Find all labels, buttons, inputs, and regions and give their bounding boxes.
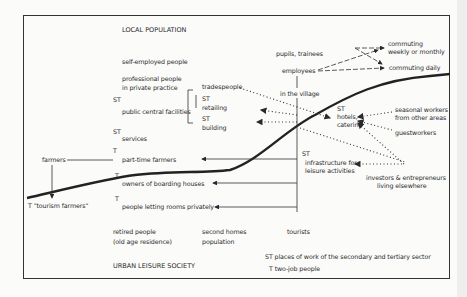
hotels-label-1: hotels, <box>337 113 358 121</box>
seasonal-label-2: from other areas <box>395 114 446 122</box>
commuting-weekly-2: weekly or monthly <box>388 48 445 56</box>
services-label: services <box>122 135 147 143</box>
legend-t: T two-job people <box>269 265 320 273</box>
boarding-label: owners of boarding houses <box>122 180 205 188</box>
investors-label-1: investors & entrepreneurs <box>366 174 446 182</box>
second-homes-label-1: second homes <box>202 228 246 236</box>
farmers-label: farmers <box>42 156 66 164</box>
pupils-label: pupils, trainees <box>276 50 323 58</box>
page-edge <box>457 0 467 297</box>
t-marker-rooms: T <box>115 195 119 203</box>
employees-label: employees <box>282 67 315 75</box>
infra-label-1: infrastructure for <box>305 159 357 167</box>
retailing-label: retailing <box>202 104 227 112</box>
public-central-label: public central facilities <box>122 108 191 116</box>
building-label: building <box>202 124 226 132</box>
rooms-label: people letting rooms privately <box>122 203 214 211</box>
urban-leisure-society-label: URBAN LEISURE SOCIETY <box>113 262 195 270</box>
local-population-label: LOCAL POPULATION <box>122 26 186 34</box>
legend-st: ST places of work of the secondary and t… <box>265 253 431 261</box>
retired-label-2: (old age residence) <box>113 238 172 246</box>
st-marker-hotels: ST <box>337 105 345 113</box>
st-marker-infra: ST <box>302 150 310 158</box>
guestworkers-label: guestworkers <box>395 129 436 137</box>
retired-label-1: retired people <box>113 228 156 236</box>
st-marker-services: ST <box>113 128 121 136</box>
tourism-farmers-label: T "tourism farmers" <box>28 202 88 210</box>
t-marker-boarding: T <box>115 172 119 180</box>
in-village-label: in the village <box>280 90 319 98</box>
part-time-farmers-label: part-time farmers <box>122 156 176 164</box>
commuting-daily: commuting daily <box>389 64 440 72</box>
professional-label-2: in private practice <box>122 84 178 92</box>
investors-label-2: living elsewhere <box>377 182 426 190</box>
st-marker-public: ST <box>113 96 121 104</box>
professional-label-1: professional people <box>122 75 182 83</box>
second-homes-label-2: population <box>202 238 235 246</box>
self-employed-label: self-employed people <box>122 58 188 66</box>
st-marker-retailing: ST <box>202 95 210 103</box>
t-marker-part-time: T <box>113 147 117 155</box>
commuting-weekly-1: commuting <box>388 40 423 48</box>
tradespeople-label: tradespeople <box>202 83 242 91</box>
seasonal-label-1: seasonal workers <box>395 106 448 114</box>
infra-label-2: leisure activities <box>305 167 355 175</box>
st-marker-building: ST <box>202 115 210 123</box>
hotels-label-2: catering <box>337 121 362 129</box>
tourists-label: tourists <box>287 228 310 236</box>
